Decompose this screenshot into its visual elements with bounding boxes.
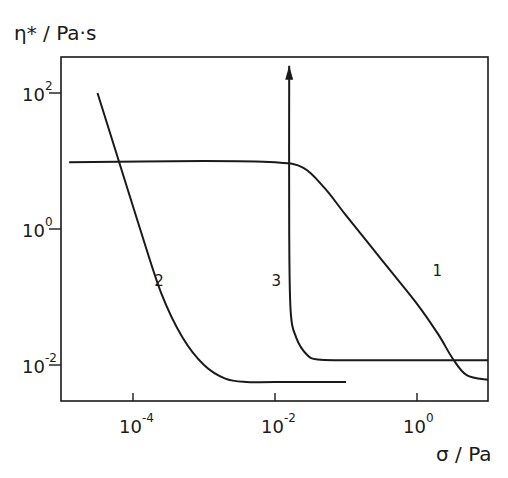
arrow-up-icon — [285, 66, 293, 80]
viscosity-chart: 10-410-210010210010-2 123 η* / Pa·s σ / … — [0, 0, 508, 478]
y-tick-label: 100 — [22, 215, 53, 241]
curve-label-1: 1 — [433, 262, 443, 280]
x-axis-title: σ / Pa — [436, 442, 492, 466]
curve-label-3: 3 — [271, 272, 281, 290]
x-tick-label: 10-4 — [119, 411, 154, 437]
axis-ticks: 10-410-210010210010-2 — [22, 79, 434, 437]
curves — [69, 66, 488, 382]
x-tick-label: 10-2 — [261, 411, 296, 437]
curve-label-2: 2 — [154, 272, 164, 290]
curve-1 — [69, 161, 488, 380]
y-tick-label: 102 — [22, 79, 53, 105]
curve-2 — [98, 93, 347, 382]
curve-3 — [289, 66, 488, 360]
y-tick-label: 10-2 — [22, 351, 57, 377]
curve-labels: 123 — [154, 262, 442, 290]
x-tick-label: 100 — [403, 411, 434, 437]
y-axis-title: η* / Pa·s — [14, 21, 96, 45]
plot-frame — [61, 57, 488, 401]
